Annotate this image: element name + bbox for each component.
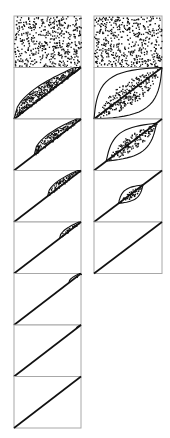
data-point [38,34,39,35]
scatter-panel [14,171,81,223]
data-point [134,20,135,21]
data-point [28,19,29,20]
data-point [36,61,37,62]
data-point [135,135,136,136]
data-point [128,147,129,148]
data-point [35,53,36,54]
data-point [138,24,139,25]
data-point [124,48,125,49]
data-point [136,56,137,57]
data-point [137,143,138,144]
data-point [71,56,72,57]
data-point [123,52,124,53]
data-point [16,20,17,21]
data-point [49,42,50,43]
data-point [37,91,38,92]
data-point [60,128,61,129]
data-point [124,105,125,106]
data-point [126,63,127,64]
data-point [121,37,122,38]
data-point [156,53,157,54]
data-point [52,62,53,63]
data-point [142,88,143,89]
data-point [155,48,156,49]
data-point [77,56,78,57]
data-point [111,44,112,45]
data-point [96,18,97,19]
data-point [34,43,35,44]
data-point [73,59,74,60]
data-point [73,30,74,31]
data-point [122,146,123,147]
data-point [111,108,112,109]
data-point [21,33,22,34]
data-point [58,20,59,21]
data-point [119,110,120,111]
data-point [130,96,131,97]
data-point [26,58,27,59]
data-point [122,61,123,62]
data-point [125,85,126,86]
data-point [109,17,110,18]
data-point [18,31,19,32]
data-point [68,32,69,33]
data-point [135,95,136,96]
data-point [74,51,75,52]
data-point [21,105,22,106]
data-point [109,96,110,97]
data-point [43,93,44,94]
data-point [147,83,148,84]
data-point [123,101,124,102]
data-point [127,148,128,149]
data-point [20,38,21,39]
data-point [115,65,116,66]
data-point [22,102,23,103]
data-point [39,27,40,28]
data-point [74,25,75,26]
data-point [140,56,141,57]
data-point [130,93,131,94]
data-point [134,35,135,36]
data-point [159,18,160,19]
data-point [139,29,140,30]
data-point [113,46,114,47]
data-point [52,22,53,23]
data-point [127,103,128,104]
data-point [115,55,116,56]
data-point [135,97,136,98]
data-point [102,50,103,51]
data-point [101,23,102,24]
data-point [56,43,57,44]
data-point [30,96,31,97]
scatter-panel [14,274,82,326]
data-point [76,50,77,51]
data-point [61,78,62,79]
data-point [153,59,154,60]
data-point [29,101,30,102]
data-point [35,43,36,44]
data-point [44,144,45,145]
data-point [124,54,125,55]
data-point [151,18,152,19]
data-point [161,31,162,32]
scatter-panel [14,325,81,377]
data-point [118,44,119,45]
data-point [134,133,135,134]
data-point [127,39,128,40]
data-point [62,179,63,180]
data-point [72,24,73,25]
data-point [128,48,129,49]
data-point [142,141,143,142]
data-point [134,92,135,93]
data-point [71,57,72,58]
data-point [17,28,18,29]
data-point [130,197,131,198]
data-point [80,35,81,36]
data-point [29,43,30,44]
data-point [61,35,62,36]
data-point [67,45,68,46]
data-point [109,60,110,61]
data-point [118,17,119,18]
data-point [148,42,149,43]
data-point [27,35,28,36]
